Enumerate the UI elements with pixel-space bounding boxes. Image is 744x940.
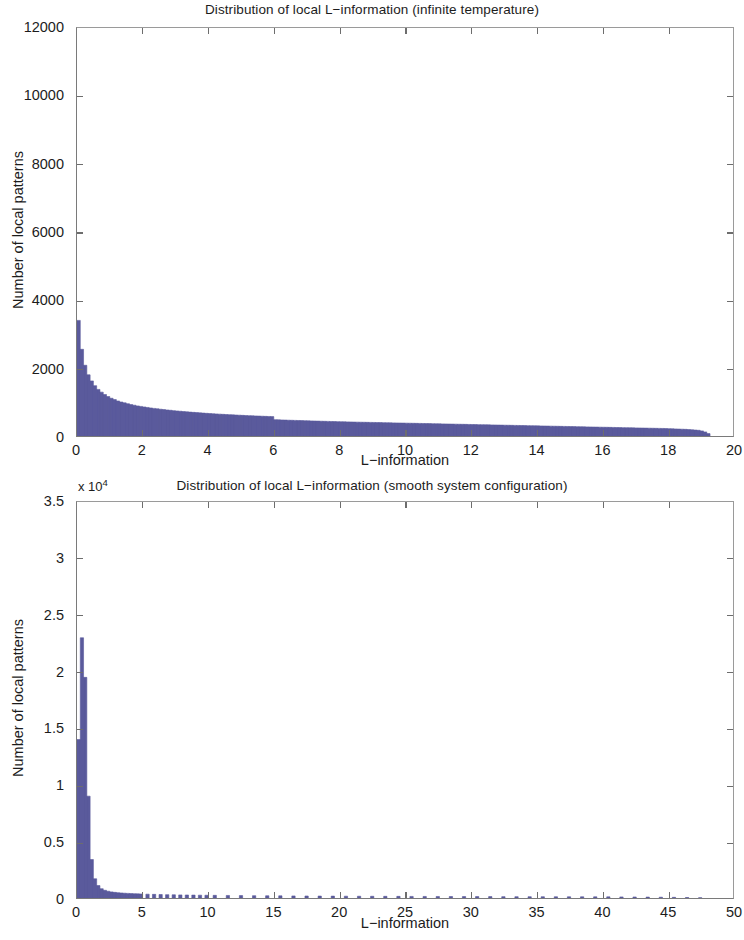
y-axis-tick-label: 2 <box>0 664 70 680</box>
figure-canvas: Distribution of local L−information (inf… <box>0 0 744 940</box>
x-axis-tick-label: 2 <box>138 442 146 458</box>
histogram-bars <box>77 28 733 436</box>
x-axis-tick-label: 5 <box>138 904 146 920</box>
y-axis-tick-mark <box>727 786 733 787</box>
x-axis-tick-mark <box>340 430 341 436</box>
x-axis-tick-mark <box>142 892 143 898</box>
y-axis-tick-mark <box>77 615 83 616</box>
y-axis-tick-label: 3.5 <box>0 493 70 509</box>
x-axis-tick-label: 10 <box>397 442 413 458</box>
x-axis-tick-label: 30 <box>463 904 479 920</box>
x-axis-tick-mark <box>142 502 143 508</box>
x-axis-tick-mark <box>340 892 341 898</box>
y-axis-tick-label: 0.5 <box>0 834 70 850</box>
y-axis-exponent-power: 4 <box>103 477 108 488</box>
y-axis-tick-label: 2000 <box>0 361 70 377</box>
x-axis-tick-mark <box>669 502 670 508</box>
y-axis-exponent-mantissa: x 10 <box>78 479 103 494</box>
panel-title: Distribution of local L−information (inf… <box>0 2 744 17</box>
x-axis-tick-label: 18 <box>660 442 676 458</box>
x-axis-tick-label: 12 <box>463 442 479 458</box>
y-axis-tick-label: 2.5 <box>0 607 70 623</box>
x-axis-tick-label: 16 <box>594 442 610 458</box>
y-axis-tick-label: 3 <box>0 550 70 566</box>
x-axis-tick-label: 35 <box>529 904 545 920</box>
x-axis-tick-mark <box>669 28 670 34</box>
x-axis-tick-label: 25 <box>397 904 413 920</box>
y-axis-tick-mark <box>77 164 83 165</box>
y-axis-tick-mark <box>77 369 83 370</box>
x-axis-tick-label: 50 <box>726 904 742 920</box>
x-axis-tick-mark <box>208 430 209 436</box>
x-axis-tick-label: 0 <box>72 442 80 458</box>
x-axis-tick-mark <box>208 28 209 34</box>
y-axis-tick-mark <box>727 729 733 730</box>
y-axis-tick-label: 6000 <box>0 224 70 240</box>
x-axis-tick-mark <box>537 430 538 436</box>
x-axis-tick-mark <box>471 430 472 436</box>
x-axis-tick-mark <box>405 28 406 34</box>
y-axis-tick-mark <box>727 301 733 302</box>
y-axis-tick-mark <box>727 369 733 370</box>
y-axis-tick-mark <box>77 232 83 233</box>
y-axis-label: Number of local patterns <box>10 598 26 798</box>
x-axis-tick-mark <box>405 892 406 898</box>
x-axis-tick-label: 8 <box>335 442 343 458</box>
x-axis-tick-mark <box>669 430 670 436</box>
y-axis-exponent: x 104 <box>78 477 108 494</box>
x-axis-tick-mark <box>142 430 143 436</box>
y-axis-tick-label: 4000 <box>0 292 70 308</box>
panel-title: Distribution of local L−information (smo… <box>0 478 744 493</box>
x-axis-tick-label: 4 <box>204 442 212 458</box>
y-axis-tick-mark <box>727 615 733 616</box>
y-axis-tick-mark <box>727 96 733 97</box>
x-axis-tick-mark <box>208 502 209 508</box>
x-axis-tick-label: 40 <box>594 904 610 920</box>
y-axis-tick-mark <box>77 672 83 673</box>
x-axis-tick-label: 0 <box>72 904 80 920</box>
y-axis-tick-mark <box>77 729 83 730</box>
y-axis-tick-mark <box>727 164 733 165</box>
y-axis-tick-label: 10000 <box>0 87 70 103</box>
x-axis-tick-label: 15 <box>265 904 281 920</box>
x-axis-tick-mark <box>340 28 341 34</box>
x-axis-tick-mark <box>603 28 604 34</box>
y-axis-tick-mark <box>727 672 733 673</box>
plot-area <box>76 501 734 899</box>
x-axis-tick-mark <box>274 892 275 898</box>
y-axis-tick-label: 1.5 <box>0 720 70 736</box>
x-axis-tick-mark <box>471 892 472 898</box>
y-axis-tick-label: 0 <box>0 429 70 445</box>
x-axis-tick-mark <box>471 28 472 34</box>
x-axis-tick-mark <box>537 892 538 898</box>
y-axis-tick-mark <box>77 301 83 302</box>
x-axis-tick-mark <box>208 892 209 898</box>
x-axis-tick-mark <box>274 430 275 436</box>
x-axis-tick-label: 6 <box>269 442 277 458</box>
x-axis-tick-mark <box>274 28 275 34</box>
y-axis-tick-mark <box>77 96 83 97</box>
x-axis-tick-mark <box>340 502 341 508</box>
x-axis-tick-mark <box>603 430 604 436</box>
x-axis-tick-label: 45 <box>660 904 676 920</box>
x-axis-tick-mark <box>274 502 275 508</box>
x-axis-tick-mark <box>471 502 472 508</box>
y-axis-tick-label: 1 <box>0 777 70 793</box>
x-axis-tick-mark <box>603 892 604 898</box>
y-axis-tick-mark <box>77 558 83 559</box>
x-axis-tick-mark <box>142 28 143 34</box>
x-axis-tick-mark <box>405 430 406 436</box>
x-axis-tick-mark <box>405 502 406 508</box>
plot-area <box>76 27 734 437</box>
histogram-bars <box>77 502 733 898</box>
panel-smooth-system-configuration: Distribution of local L−information (smo… <box>0 470 744 940</box>
y-axis-tick-mark <box>727 843 733 844</box>
y-axis-tick-label: 8000 <box>0 156 70 172</box>
panel-infinite-temperature: Distribution of local L−information (inf… <box>0 0 744 470</box>
x-axis-tick-mark <box>603 502 604 508</box>
y-axis-tick-mark <box>727 558 733 559</box>
x-axis-tick-label: 14 <box>529 442 545 458</box>
y-axis-tick-mark <box>77 786 83 787</box>
y-axis-tick-label: 12000 <box>0 19 70 35</box>
y-axis-tick-mark <box>727 232 733 233</box>
